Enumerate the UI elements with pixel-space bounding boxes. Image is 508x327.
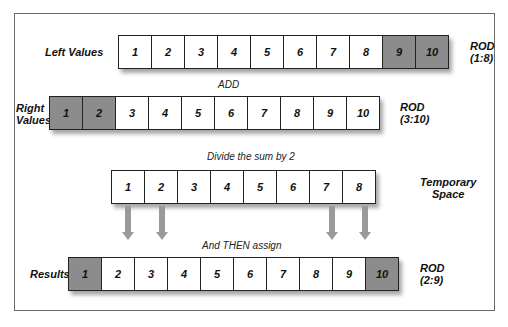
right-cell-7: 7 (247, 96, 281, 130)
left-cell-3: 3 (184, 35, 218, 69)
left-rod-range: (1:8) (470, 52, 494, 64)
temp-cell-3: 3 (177, 170, 211, 204)
left-cell-1: 1 (118, 35, 152, 69)
left-cell-5: 5 (250, 35, 284, 69)
result-cell-5: 5 (200, 257, 234, 291)
left-rod-label: ROD (1:8) (470, 40, 494, 64)
divide-caption: Divide the sum by 2 (207, 151, 295, 162)
left-rod-title: ROD (470, 40, 494, 52)
result-cell-10: 10 (365, 257, 399, 291)
results-rod-label: ROD (2:9) (420, 262, 444, 286)
result-cell-3: 3 (134, 257, 168, 291)
right-cell-6: 6 (214, 96, 248, 130)
temp-cell-8: 8 (342, 170, 376, 204)
down-arrow-icon (326, 206, 338, 240)
result-cell-8: 8 (299, 257, 333, 291)
right-values-label-line1: Right (16, 102, 51, 114)
left-cell-9: 9 (382, 35, 416, 69)
right-rod-range: (3:10) (400, 113, 429, 125)
result-cell-4: 4 (167, 257, 201, 291)
right-cell-2: 2 (82, 96, 116, 130)
results-row: 1 2 3 4 5 6 7 8 9 10 (68, 257, 399, 291)
right-rod-label: ROD (3:10) (400, 101, 429, 125)
results-rod-title: ROD (420, 262, 444, 274)
temp-cell-5: 5 (243, 170, 277, 204)
right-cell-8: 8 (280, 96, 314, 130)
assign-caption: And THEN assign (202, 240, 281, 251)
right-values-label-line2: Values (16, 114, 51, 126)
result-cell-7: 7 (266, 257, 300, 291)
right-cell-5: 5 (181, 96, 215, 130)
left-cell-7: 7 (316, 35, 350, 69)
result-cell-2: 2 (101, 257, 135, 291)
results-rod-range: (2:9) (420, 274, 444, 286)
right-values-label: Right Values (16, 102, 51, 126)
result-cell-1: 1 (68, 257, 102, 291)
right-cell-4: 4 (148, 96, 182, 130)
right-cell-10: 10 (346, 96, 380, 130)
temporary-space-label: Temporary Space (420, 176, 476, 200)
left-cell-8: 8 (349, 35, 383, 69)
right-cell-9: 9 (313, 96, 347, 130)
down-arrow-icon (359, 206, 371, 240)
temporary-space-line1: Temporary (420, 176, 476, 188)
temp-cell-1: 1 (111, 170, 145, 204)
left-cell-10: 10 (415, 35, 449, 69)
result-cell-9: 9 (332, 257, 366, 291)
right-cell-3: 3 (115, 96, 149, 130)
down-arrow-icon (156, 206, 168, 240)
add-caption: ADD (218, 79, 239, 90)
temporary-space-row: 1 2 3 4 5 6 7 8 (111, 170, 376, 204)
result-cell-6: 6 (233, 257, 267, 291)
left-cell-6: 6 (283, 35, 317, 69)
down-arrow-icon (122, 206, 134, 240)
left-values-row: 1 2 3 4 5 6 7 8 9 10 (118, 35, 449, 69)
left-values-label: Left Values (45, 46, 103, 58)
right-cell-1: 1 (49, 96, 83, 130)
right-rod-title: ROD (400, 101, 429, 113)
left-cell-2: 2 (151, 35, 185, 69)
temp-cell-4: 4 (210, 170, 244, 204)
left-cell-4: 4 (217, 35, 251, 69)
results-label: Results (30, 268, 70, 280)
temp-cell-7: 7 (309, 170, 343, 204)
temp-cell-6: 6 (276, 170, 310, 204)
temp-cell-2: 2 (144, 170, 178, 204)
temporary-space-line2: Space (420, 188, 476, 200)
right-values-row: 1 2 3 4 5 6 7 8 9 10 (49, 96, 380, 130)
